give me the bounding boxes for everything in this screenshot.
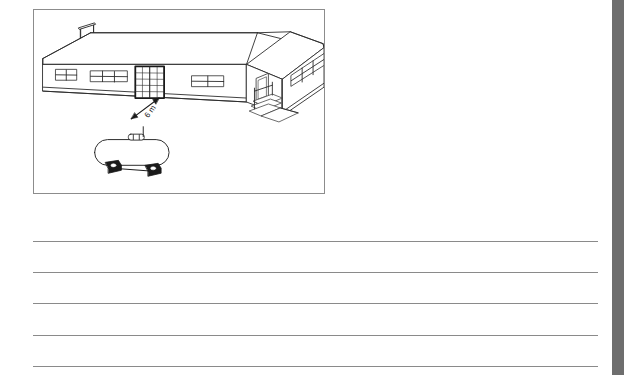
answer-line-3[interactable] xyxy=(33,303,598,304)
answer-line-1[interactable] xyxy=(33,241,598,242)
answer-line-5[interactable] xyxy=(33,366,598,367)
tank-valve-assembly xyxy=(128,134,144,140)
dimension-label: 6 m xyxy=(143,103,158,119)
scrollbar[interactable] xyxy=(612,0,624,375)
figure-frame: 6 m xyxy=(33,9,325,194)
window-2 xyxy=(91,71,128,82)
propane-tank xyxy=(95,127,169,166)
answer-line-2[interactable] xyxy=(33,272,598,273)
sliding-glass-door xyxy=(135,66,164,98)
worksheet-page: 6 m xyxy=(0,0,627,375)
window-3 xyxy=(192,76,224,87)
tank-saddle-support-left xyxy=(106,160,122,173)
tank-saddle-support-right xyxy=(145,163,161,176)
answer-line-4[interactable] xyxy=(33,335,598,336)
house-and-propane-tank-diagram: 6 m xyxy=(34,10,324,193)
window-1 xyxy=(56,69,77,80)
